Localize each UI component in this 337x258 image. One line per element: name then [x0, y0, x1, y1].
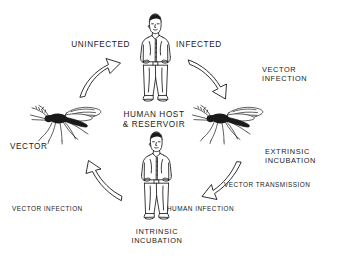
arrow-vector-infection-up-left: [73, 160, 125, 204]
label-vector-infection-left: VECTOR INFECTION: [12, 205, 112, 213]
label-vector: VECTOR: [10, 142, 70, 152]
label-extrinsic-incubation: EXTRINSIC INCUBATION: [265, 147, 337, 165]
label-human-host-reservoir: HUMAN HOST & RESERVOIR: [104, 110, 204, 130]
arrow-uninfected-up-right: [76, 56, 126, 100]
label-uninfected: UNINFECTED: [62, 40, 130, 50]
label-infected: INFECTED: [176, 40, 246, 50]
transmission-cycle-diagram: UNINFECTED INFECTED VECTOR INFECTION HUM…: [0, 0, 337, 258]
label-vector-transmission: VECTOR TRANSMISSION: [224, 181, 336, 189]
label-human-infection: HUMAN INFECTION: [167, 205, 267, 213]
human-figure-top: [133, 12, 177, 104]
arrow-infected-down-right: [185, 57, 237, 101]
label-vector-infection-right: VECTOR INFECTION: [262, 65, 332, 83]
mosquito-figure-left: [28, 101, 104, 145]
label-intrinsic-incubation: INTRINSIC INCUBATION: [111, 227, 203, 245]
